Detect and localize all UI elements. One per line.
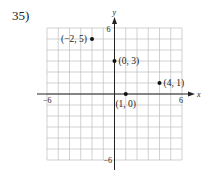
data-point xyxy=(158,81,162,85)
point-label: (0, 3) xyxy=(119,56,140,67)
y-axis-label: y xyxy=(112,8,117,17)
point-label: (4, 1) xyxy=(164,78,185,89)
coordinate-plane: −6 6 −6 6 x y (−2, 5)(0, 3)(4, 1)(1, 0) xyxy=(0,0,209,178)
y-axis-arrow-icon xyxy=(112,17,117,24)
point-label: (−2, 5) xyxy=(61,34,87,45)
x-axis-label: x xyxy=(196,90,201,99)
y-max-tick-label: 6 xyxy=(107,25,111,34)
point-label: (1, 0) xyxy=(115,99,136,110)
data-point xyxy=(113,59,117,63)
x-axis-arrow-icon xyxy=(188,92,195,97)
y-min-tick-label: −6 xyxy=(104,156,113,165)
data-point xyxy=(124,92,128,96)
x-max-tick-label: 6 xyxy=(179,96,183,105)
x-min-tick-label: −6 xyxy=(43,96,52,105)
data-point xyxy=(90,37,94,41)
